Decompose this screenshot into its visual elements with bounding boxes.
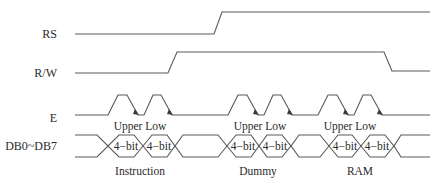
signal-label-rs: RS	[42, 27, 57, 41]
arrow-icon	[167, 109, 173, 115]
bus-cell-label: 4−bit	[263, 140, 288, 152]
rs-waveform	[75, 12, 430, 34]
rw-waveform	[75, 52, 430, 73]
phase-label-instruction: Instruction	[115, 165, 165, 177]
signal-label-e: E	[50, 111, 57, 125]
arrow-icon	[133, 109, 139, 115]
bus-cell-label: 4−bit	[231, 140, 256, 152]
phase-label-ram: RAM	[347, 165, 373, 177]
bus-cell-label: 4−bit	[333, 140, 358, 152]
e-waveform	[75, 95, 430, 115]
pulse-label: Upper Low	[114, 120, 167, 133]
pulse-label: Upper Low	[324, 120, 377, 133]
signal-label-rw: R/W	[34, 66, 57, 80]
pulse-label: Upper Low	[234, 120, 287, 133]
timing-diagram: RS R/W E DB0~DB7 Upper Low Upper Low Upp…	[0, 0, 445, 188]
phase-label-dummy: Dummy	[239, 165, 277, 178]
arrow-icon	[343, 109, 349, 115]
signal-label-db: DB0~DB7	[5, 139, 57, 153]
bus-cell-label: 4−bit	[147, 140, 172, 152]
arrow-icon	[287, 109, 293, 115]
bus-cell-label: 4−bit	[114, 140, 139, 152]
arrow-icon	[253, 109, 259, 115]
arrow-icon	[377, 109, 383, 115]
bus-cell-label: 4−bit	[365, 140, 390, 152]
